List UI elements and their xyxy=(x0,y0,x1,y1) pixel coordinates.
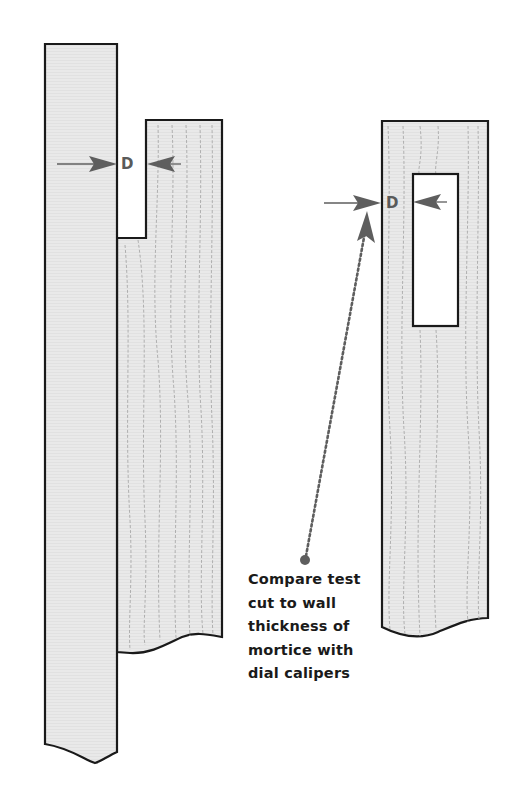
callout-line-2: cut to wall xyxy=(248,592,438,616)
callout-line-3: thickness of xyxy=(248,615,438,639)
leader-line xyxy=(300,211,375,565)
callout-line-4: mortice with xyxy=(248,639,438,663)
dimension-label-left: D xyxy=(121,155,133,173)
callout-line-5: dial calipers xyxy=(248,662,438,686)
left-board xyxy=(45,44,117,763)
callout-line-1: Compare test xyxy=(248,568,438,592)
leader-dot xyxy=(300,555,310,565)
test-cut-board xyxy=(117,120,222,653)
callout-text: Compare test cut to wall thickness of mo… xyxy=(248,568,438,686)
leader-arrowhead xyxy=(357,211,375,243)
dimension-label-right: D xyxy=(386,194,398,212)
